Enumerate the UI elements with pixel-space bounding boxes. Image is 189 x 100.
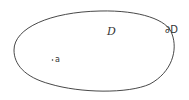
boundary-label: ∂D xyxy=(165,25,178,35)
domain-diagram xyxy=(0,0,189,100)
boundary-curve xyxy=(14,11,174,91)
region-label: D xyxy=(107,26,116,37)
point-a-dot xyxy=(52,59,54,61)
point-label: a xyxy=(55,56,60,64)
